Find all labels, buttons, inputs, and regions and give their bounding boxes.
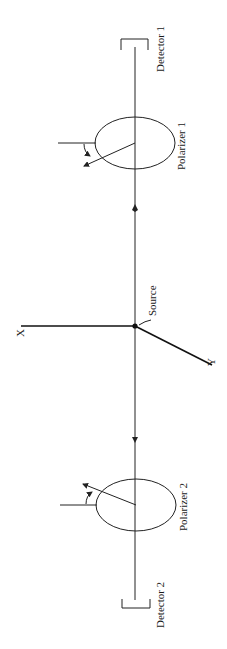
polarizer-1-angle-arc-icon <box>84 144 90 156</box>
diagram-canvas: Detector 1 Polarizer 1 Source X Y Polari… <box>0 0 227 649</box>
polarizer-2-axis-arrow <box>83 484 136 505</box>
beam-arrow-down-icon <box>132 437 138 443</box>
beam-arrow-up-icon <box>132 204 138 212</box>
axis-y-label: Y <box>205 358 217 366</box>
source-dot <box>132 323 137 328</box>
polarizer-2-label: Polarizer 2 <box>177 483 189 531</box>
polarizer-1 <box>58 117 175 169</box>
axis-x-label: X <box>14 329 26 337</box>
y-axis-line <box>135 326 212 365</box>
source-label: Source <box>146 285 158 316</box>
detector-1-label: Detector 1 <box>154 26 166 72</box>
detector-2-bracket <box>122 599 150 608</box>
polarizer-1-label: Polarizer 1 <box>175 122 187 170</box>
source-pointer <box>139 320 151 325</box>
detector-2-label: Detector 2 <box>154 582 166 628</box>
detector-2 <box>122 599 150 608</box>
source <box>21 320 212 365</box>
polarizer-2-angle-arc-icon <box>86 492 92 504</box>
polarizer-2 <box>60 479 176 531</box>
